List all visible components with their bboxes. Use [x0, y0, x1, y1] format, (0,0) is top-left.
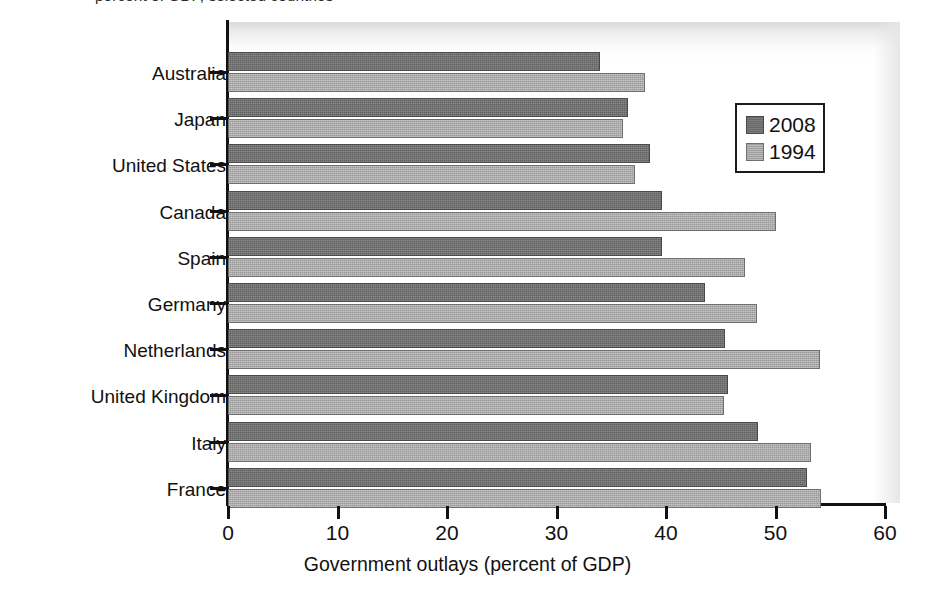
x-axis-tick-label: 20 [412, 521, 482, 545]
x-axis-tick [556, 506, 559, 519]
category-label-canada: Canada [0, 203, 226, 222]
legend-swatch-2008 [746, 116, 764, 134]
y-axis-tick [210, 71, 227, 74]
category-label-france: France [0, 480, 226, 499]
bar-1994-united-states [228, 165, 635, 184]
category-label-italy: Italy [0, 434, 226, 453]
category-label-netherlands: Netherlands [0, 341, 226, 360]
bar-1994-france [228, 489, 821, 508]
category-label-germany: Germany [0, 295, 226, 314]
bar-1994-italy [228, 443, 811, 462]
bar-2008-france [228, 468, 807, 487]
x-axis-tick [884, 506, 887, 519]
bar-group [228, 375, 900, 417]
y-axis-tick [210, 163, 227, 166]
x-axis-tick [775, 506, 778, 519]
bar-2008-canada [228, 191, 662, 210]
bar-1994-germany [228, 304, 757, 323]
bar-group [228, 237, 900, 279]
clipped-figure-caption: percent of GDP, selected countries [95, 0, 855, 5]
y-axis-tick [210, 117, 227, 120]
bar-1994-canada [228, 212, 776, 231]
bar-1994-netherlands [228, 350, 820, 369]
bar-2008-japan [228, 98, 628, 117]
bar-2008-united-kingdom [228, 375, 728, 394]
bar-chart: percent of GDP, selected countries Austr… [0, 0, 935, 591]
bar-2008-united-states [228, 144, 650, 163]
bar-2008-germany [228, 283, 705, 302]
bars-layer [228, 22, 900, 503]
y-axis-tick [210, 302, 227, 305]
bar-group [228, 283, 900, 325]
legend-item-2008: 2008 [746, 111, 823, 138]
x-axis-tick [337, 506, 340, 519]
category-label-spain: Spain [0, 249, 226, 268]
y-axis-tick [210, 256, 227, 259]
category-label-united-states: United States [0, 156, 226, 175]
category-label-australia: Australia [0, 64, 226, 83]
legend-swatch-1994 [746, 143, 764, 161]
bar-1994-australia [228, 73, 645, 92]
x-axis-tick-label: 30 [522, 521, 592, 545]
y-axis-tick [210, 210, 227, 213]
x-axis-tick [665, 506, 668, 519]
bar-group [228, 329, 900, 371]
legend-label-2008: 2008 [769, 114, 816, 135]
bar-group [228, 422, 900, 464]
y-axis-tick [210, 348, 227, 351]
y-axis-tick [210, 487, 227, 490]
legend: 2008 1994 [735, 103, 825, 173]
x-axis-tick-label: 10 [303, 521, 373, 545]
bar-1994-japan [228, 119, 623, 138]
legend-label-1994: 1994 [769, 141, 816, 162]
y-axis-tick [210, 394, 227, 397]
x-axis-tick [446, 506, 449, 519]
bar-2008-spain [228, 237, 662, 256]
x-axis-tick [227, 506, 230, 519]
x-axis-tick-label: 50 [741, 521, 811, 545]
x-axis-tick-label: 40 [631, 521, 701, 545]
bar-group [228, 468, 900, 510]
legend-item-1994: 1994 [746, 138, 823, 165]
bar-2008-australia [228, 52, 600, 71]
bar-1994-united-kingdom [228, 396, 724, 415]
category-label-united-kingdom: United Kingdom [0, 387, 226, 406]
bar-1994-spain [228, 258, 745, 277]
x-axis-tick-label: 0 [193, 521, 263, 545]
bar-2008-italy [228, 422, 758, 441]
x-axis-tick-label: 60 [850, 521, 920, 545]
bar-group [228, 52, 900, 94]
category-label-japan: Japan [0, 110, 226, 129]
bar-group [228, 191, 900, 233]
x-axis-title: Government outlays (percent of GDP) [0, 553, 935, 576]
bar-2008-netherlands [228, 329, 725, 348]
y-axis-tick [210, 441, 227, 444]
